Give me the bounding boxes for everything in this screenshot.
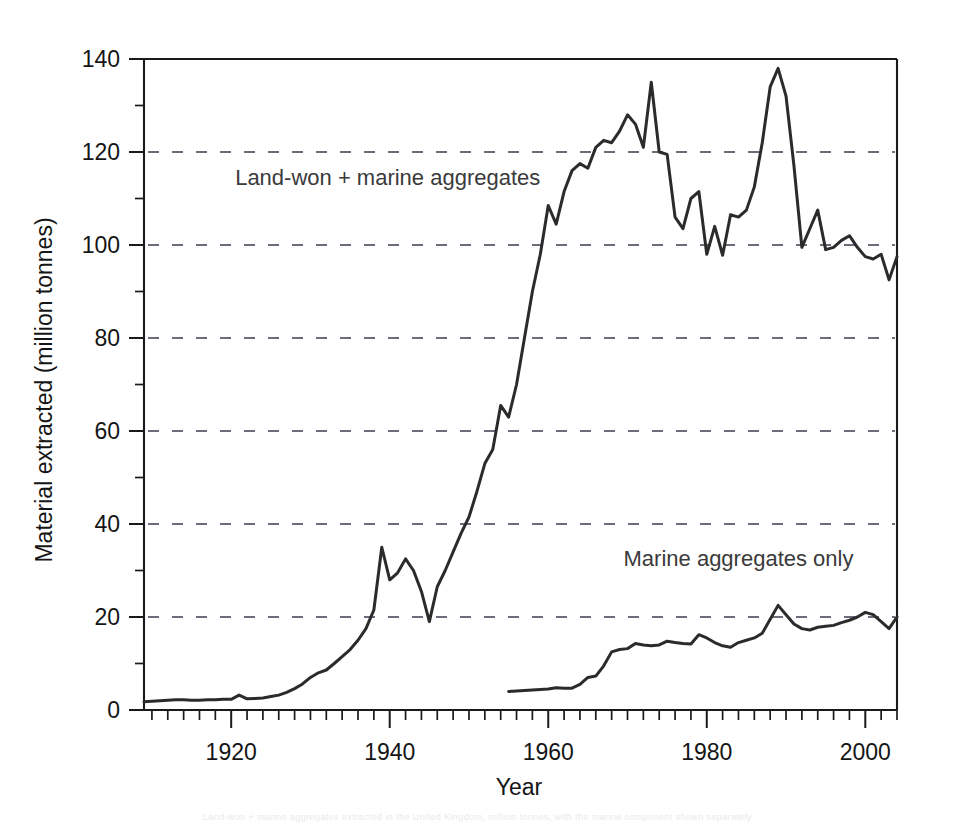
tick-label-group: 02040608010012014019201940196019802000	[82, 46, 891, 765]
series-group	[144, 68, 897, 701]
figure-caption: Land-won + marine aggregates extracted i…	[0, 802, 955, 828]
chart-figure: 02040608010012014019201940196019802000 L…	[0, 0, 955, 828]
ytick-label-80: 80	[94, 325, 120, 351]
aggregates-line-chart: 02040608010012014019201940196019802000 L…	[0, 0, 955, 828]
series-line-land-won-plus-marine	[144, 68, 897, 701]
xtick-label-1960: 1960	[523, 739, 574, 765]
ytick-label-0: 0	[107, 697, 120, 723]
series-line-marine-only	[509, 605, 897, 691]
ytick-label-20: 20	[94, 604, 120, 630]
xtick-label-1920: 1920	[206, 739, 257, 765]
x-axis-title: Year	[496, 774, 543, 800]
xtick-label-1980: 1980	[681, 739, 732, 765]
series-annotation-land-won-plus-marine: Land-won + marine aggregates	[235, 165, 540, 190]
xtick-label-1940: 1940	[364, 739, 415, 765]
y-axis-title: Material extracted (million tonnes)	[31, 217, 57, 562]
series-annotation-marine-only: Marine aggregates only	[624, 546, 854, 571]
ytick-label-120: 120	[82, 139, 120, 165]
ytick-label-40: 40	[94, 511, 120, 537]
ytick-label-60: 60	[94, 418, 120, 444]
xtick-label-2000: 2000	[840, 739, 891, 765]
ytick-label-140: 140	[82, 46, 120, 72]
ytick-label-100: 100	[82, 232, 120, 258]
